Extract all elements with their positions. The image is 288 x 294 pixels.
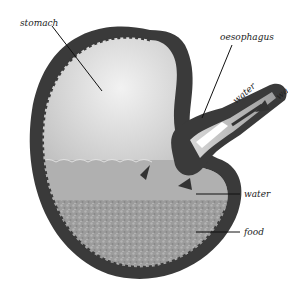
- stomach-diagram: stomach oesophagus water wa water food: [0, 0, 288, 294]
- stomach-label: stomach: [20, 18, 58, 28]
- food-layer: [0, 200, 288, 294]
- food-layer-label: food: [243, 227, 264, 237]
- oesophagus-label: oesophagus: [220, 32, 274, 42]
- water-layer-label: water: [244, 189, 271, 199]
